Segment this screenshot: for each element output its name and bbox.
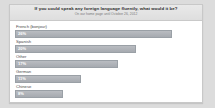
- poll-bar-fill: 8%: [15, 90, 63, 98]
- poll-bar-fill: 11%: [15, 75, 81, 83]
- poll-bar-value: 8%: [16, 90, 24, 98]
- poll-header: If you could speak any foreign language …: [10, 5, 202, 21]
- poll-widget: If you could speak any foreign language …: [9, 4, 203, 103]
- poll-result-row: French (bonjour) 26%: [15, 24, 196, 38]
- poll-result-row: Other 17%: [15, 54, 196, 68]
- poll-bar-fill: 26%: [15, 30, 172, 38]
- poll-bar-value: 11%: [16, 75, 26, 83]
- poll-bar-fill: 17%: [15, 60, 118, 68]
- poll-bar-fill: 20%: [15, 45, 136, 53]
- poll-bar-track: 17%: [15, 60, 196, 68]
- poll-subtitle: On our home page until October 26, 2012: [10, 12, 202, 17]
- poll-result-row: Chinese 8%: [15, 84, 196, 98]
- poll-result-row: Spanish 20%: [15, 39, 196, 53]
- poll-bar-value: 20%: [16, 45, 26, 53]
- poll-results-chart: French (bonjour) 26% Spanish 20% Other 1…: [10, 21, 202, 101]
- poll-bar-track: 11%: [15, 75, 196, 83]
- poll-bar-value: 26%: [16, 30, 26, 38]
- poll-bar-track: 26%: [15, 30, 196, 38]
- poll-bar-value: 17%: [16, 60, 26, 68]
- poll-bar-track: 20%: [15, 45, 196, 53]
- poll-result-row: German 11%: [15, 69, 196, 83]
- poll-bar-track: 8%: [15, 90, 196, 98]
